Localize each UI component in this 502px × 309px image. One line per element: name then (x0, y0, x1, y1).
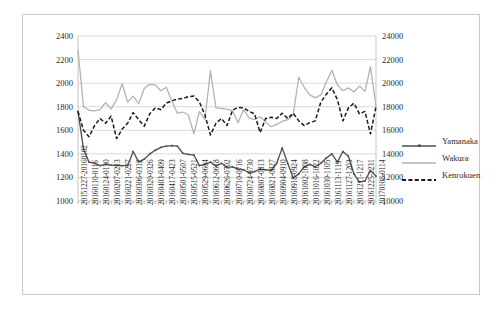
series-marker (149, 153, 151, 155)
x-tick-label: 20160710-0716 (236, 159, 243, 205)
y-right-tick-label: 22000 (382, 56, 426, 65)
chart-frame: Yamanaka Wakura Kenrokuen 10001200140016… (22, 14, 480, 295)
x-tick-label: 20161225-1231 (368, 159, 375, 205)
series-marker (331, 153, 333, 155)
x-tick-label: 20161016-1022 (313, 159, 320, 205)
legend-label-wakura: Wakura (442, 154, 469, 163)
series-marker (165, 145, 167, 147)
series-line-kenrokuen (78, 88, 376, 139)
legend-item-yamanaka: Yamanaka (401, 133, 502, 150)
x-tick-label: 20160221-0227 (125, 159, 132, 205)
x-tick-label: 20160207-0213 (114, 159, 121, 205)
x-tick-label: 20160320-0326 (147, 159, 154, 205)
legend-label-yamanaka: Yamanaka (442, 137, 478, 146)
y-left-tick-label: 1000 (33, 197, 73, 206)
y-right-tick-label: 24000 (382, 32, 426, 41)
x-tick-label: 20160612-0618 (213, 159, 220, 205)
series-marker (182, 152, 184, 154)
y-left-tick-label: 1800 (33, 103, 73, 112)
x-tick-label: 20160110-0116 (92, 160, 99, 205)
x-tick-label: 20160306-0312 (136, 159, 143, 205)
series-marker (326, 157, 328, 159)
series-marker (154, 150, 156, 152)
series-marker (160, 147, 162, 149)
x-tick-label: 20170108-0114 (379, 160, 386, 205)
y-right-tick-label: 12000 (382, 173, 426, 182)
y-right-tick-label: 14000 (382, 150, 426, 159)
series-marker (188, 154, 190, 156)
y-left-tick-label: 1600 (33, 126, 73, 135)
series-marker (171, 145, 173, 147)
series-marker (348, 155, 350, 157)
x-tick-label: 20161127-1203 (346, 160, 353, 205)
y-left-tick-label: 2400 (33, 32, 73, 41)
series-marker (132, 151, 134, 153)
plot-wrapper: Yamanaka Wakura Kenrokuen 10001200140016… (23, 15, 479, 294)
y-right-tick-label: 16000 (382, 126, 426, 135)
x-tick-label: 20160821-0827 (269, 159, 276, 205)
x-tick-label: 20160626-0702 (224, 159, 231, 205)
x-tick-label: 20160417-0423 (169, 159, 176, 205)
x-tick-label: 20160807-0813 (258, 159, 265, 205)
y-left-tick-label: 2200 (33, 56, 73, 65)
series-marker (193, 154, 195, 156)
y-right-tick-label: 20000 (382, 79, 426, 88)
y-right-tick-label: 10000 (382, 197, 426, 206)
series-marker (342, 151, 344, 153)
x-tick-label: 20160515-0521 (191, 159, 198, 205)
x-tick-label: 20151227-20160102 (81, 145, 88, 205)
x-tick-label: 20160501-0507 (180, 159, 187, 205)
series-line-wakura (78, 50, 376, 134)
legend-key-yamanaka (401, 137, 437, 147)
x-tick-label: 20160918-0924 (291, 159, 298, 205)
series-marker (177, 145, 179, 147)
x-tick-label: 20161002-1008 (302, 159, 309, 205)
x-tick-label: 20160529-0604 (202, 159, 209, 205)
x-tick-label: 20161211-1217 (357, 160, 364, 205)
x-tick-label: 20161030-1105 (324, 160, 331, 205)
x-tick-label: 20160904-0910 (280, 159, 287, 205)
legend-label-kenrokuen: Kenrokuen (442, 171, 480, 180)
x-tick-label: 20161113-1119 (335, 161, 342, 205)
y-left-tick-label: 2000 (33, 79, 73, 88)
y-right-tick-label: 18000 (382, 103, 426, 112)
series-marker (281, 147, 283, 149)
x-tick-label: 20160724-0730 (247, 159, 254, 205)
x-tick-label: 20160403-0409 (158, 159, 165, 205)
y-left-tick-label: 1400 (33, 150, 73, 159)
y-left-tick-label: 1200 (33, 173, 73, 182)
x-tick-label: 20160124-0130 (103, 159, 110, 205)
